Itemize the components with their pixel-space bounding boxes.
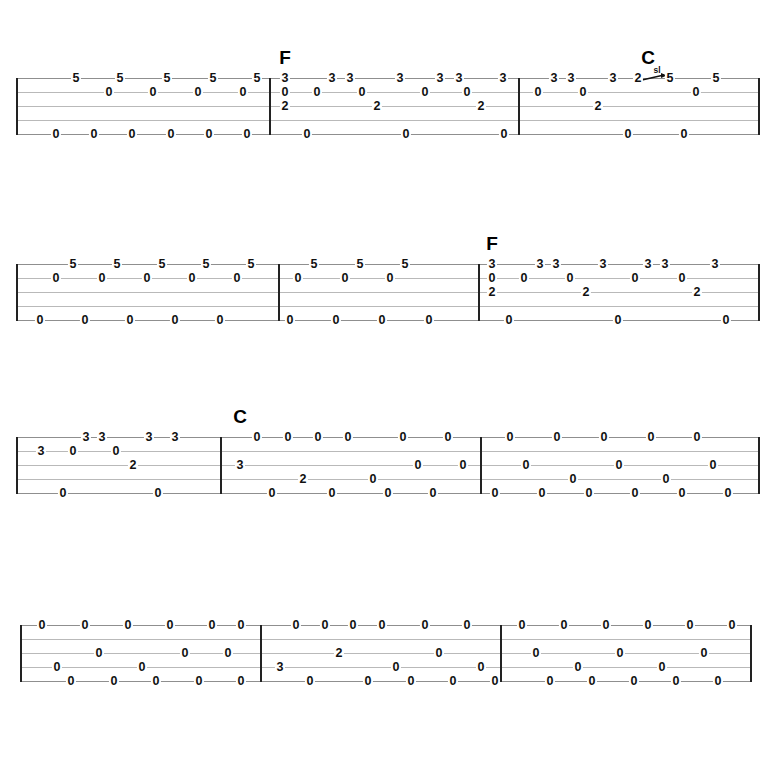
tab-note[interactable]: 0: [578, 87, 588, 98]
tab-note[interactable]: 0: [151, 676, 161, 687]
tab-note[interactable]: 0: [305, 676, 315, 687]
tab-note[interactable]: 0: [204, 129, 214, 140]
tab-note[interactable]: 3: [487, 259, 497, 270]
tab-note[interactable]: 3: [345, 73, 355, 84]
tab-note[interactable]: 3: [275, 662, 285, 673]
tab-note[interactable]: 0: [568, 474, 578, 485]
tab-note[interactable]: 2: [372, 101, 382, 112]
tab-note[interactable]: 2: [593, 101, 603, 112]
tab-note[interactable]: 0: [104, 87, 114, 98]
tab-note[interactable]: 0: [123, 620, 133, 631]
tab-note[interactable]: 0: [692, 432, 702, 443]
measure[interactable]: 0500500500: [278, 264, 478, 322]
tab-note[interactable]: 0: [552, 432, 562, 443]
tab-note[interactable]: 0: [51, 273, 61, 284]
measure[interactable]: Csl033023025005: [518, 78, 760, 136]
tab-note[interactable]: 0: [327, 488, 337, 499]
tab-note[interactable]: 0: [313, 432, 323, 443]
tab-note[interactable]: 0: [708, 460, 718, 471]
tab-note[interactable]: 0: [699, 648, 709, 659]
tab-note[interactable]: 0: [643, 620, 653, 631]
tab-note[interactable]: 0: [193, 87, 203, 98]
tab-note[interactable]: 0: [285, 315, 295, 326]
tab-note[interactable]: 0: [661, 474, 671, 485]
tab-note[interactable]: 0: [166, 129, 176, 140]
tab-note[interactable]: 0: [302, 129, 312, 140]
measure[interactable]: 505000500500500: [16, 78, 269, 136]
tab-note[interactable]: 3: [454, 73, 464, 84]
tab-note[interactable]: 0: [291, 620, 301, 631]
tab-note[interactable]: 0: [443, 432, 453, 443]
tab-note[interactable]: 0: [505, 432, 515, 443]
measure[interactable]: 0000000000000000: [500, 625, 752, 683]
measure[interactable]: F302003302300330230: [269, 78, 518, 136]
tab-note[interactable]: 5: [665, 73, 675, 84]
tab-note[interactable]: 0: [331, 315, 341, 326]
tab-note[interactable]: 0: [391, 662, 401, 673]
tab-note[interactable]: 0: [587, 676, 597, 687]
tab-note[interactable]: 0: [615, 648, 625, 659]
tab-note[interactable]: 0: [531, 648, 541, 659]
chord-label[interactable]: F: [486, 234, 498, 253]
tab-note[interactable]: 2: [128, 460, 138, 471]
tab-note[interactable]: 0: [685, 620, 695, 631]
tab-note[interactable]: 0: [537, 488, 547, 499]
tab-note[interactable]: 0: [383, 488, 393, 499]
tab-note[interactable]: 2: [487, 287, 497, 298]
tab-note[interactable]: 0: [677, 488, 687, 499]
measure[interactable]: C000000300200000: [220, 437, 480, 495]
tab-note[interactable]: 0: [142, 273, 152, 284]
tab-note[interactable]: 3: [566, 73, 576, 84]
tab-note[interactable]: 5: [112, 259, 122, 270]
tab-note[interactable]: 2: [280, 101, 290, 112]
tab-note[interactable]: 0: [691, 87, 701, 98]
tab-note[interactable]: 0: [462, 87, 472, 98]
tab-note[interactable]: 0: [35, 315, 45, 326]
tab-note[interactable]: 0: [180, 648, 190, 659]
tab-note[interactable]: 0: [584, 488, 594, 499]
tab-note[interactable]: 5: [162, 73, 172, 84]
tab-note[interactable]: 0: [340, 273, 350, 284]
tab-note[interactable]: 0: [58, 488, 68, 499]
tab-note[interactable]: 0: [614, 460, 624, 471]
tab-note[interactable]: 0: [377, 315, 387, 326]
tab-note[interactable]: 5: [157, 259, 167, 270]
tab-note[interactable]: 0: [194, 676, 204, 687]
tab-note[interactable]: 0: [293, 273, 303, 284]
tab-note[interactable]: 0: [487, 273, 497, 284]
measure[interactable]: 3033020330: [16, 437, 220, 495]
tab-note[interactable]: 0: [559, 620, 569, 631]
tab-note[interactable]: 0: [723, 488, 733, 499]
measure[interactable]: 050050050050050: [16, 264, 278, 322]
measure[interactable]: F302003302300330230: [478, 264, 760, 322]
tab-note[interactable]: 3: [435, 73, 445, 84]
tab-note[interactable]: 3: [549, 73, 559, 84]
tab-note[interactable]: 5: [711, 73, 721, 84]
tab-note[interactable]: 0: [232, 273, 242, 284]
tab-note[interactable]: 0: [671, 676, 681, 687]
tab-note[interactable]: 5: [355, 259, 365, 270]
tab-note[interactable]: 0: [601, 620, 611, 631]
tab-note[interactable]: 5: [201, 259, 211, 270]
tab-note[interactable]: 0: [165, 620, 175, 631]
tab-note[interactable]: 0: [533, 87, 543, 98]
tab-note[interactable]: 0: [312, 87, 322, 98]
tab-note[interactable]: 0: [448, 676, 458, 687]
tab-note[interactable]: 5: [246, 259, 256, 270]
tab-note[interactable]: 0: [127, 129, 137, 140]
tab-note[interactable]: 0: [630, 488, 640, 499]
tab-note[interactable]: 0: [420, 87, 430, 98]
tab-note[interactable]: 0: [283, 432, 293, 443]
tab-note[interactable]: 0: [490, 676, 500, 687]
tab-note[interactable]: 0: [80, 620, 90, 631]
tab-note[interactable]: 0: [148, 87, 158, 98]
tab-note[interactable]: 0: [357, 87, 367, 98]
measure[interactable]: 0000003200000000: [260, 625, 500, 683]
tab-note[interactable]: 5: [252, 73, 262, 84]
tab-note[interactable]: 3: [643, 259, 653, 270]
tab-note[interactable]: 0: [37, 620, 47, 631]
tab-note[interactable]: 0: [80, 315, 90, 326]
tab-note[interactable]: 2: [476, 101, 486, 112]
tab-note[interactable]: 3: [81, 432, 91, 443]
tab-note[interactable]: 0: [252, 432, 262, 443]
